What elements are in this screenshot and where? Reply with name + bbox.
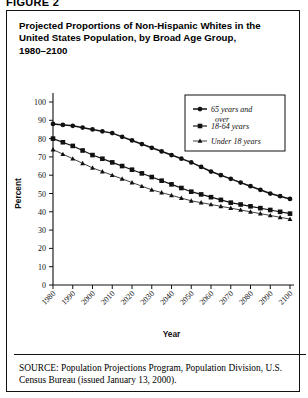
x-axis-tick-label: 2080: [237, 289, 255, 307]
data-point-circle: [130, 138, 135, 143]
data-point-triangle: [51, 147, 56, 151]
figure-title: Projected Proportions of Non-Hispanic Wh…: [19, 20, 287, 57]
data-point-circle: [149, 145, 154, 150]
source-text-line-1: Population Projections Program, Populati…: [61, 363, 263, 373]
x-axis-tick-label: 1990: [59, 289, 77, 307]
x-axis-tick-label: 1980: [40, 289, 58, 307]
data-point-square: [258, 206, 263, 211]
data-point-circle: [288, 197, 293, 202]
source-divider: [14, 354, 306, 355]
data-point-square: [70, 144, 75, 149]
data-point-circle: [219, 173, 224, 178]
figure-frame: Projected Proportions of Non-Hispanic Wh…: [6, 10, 300, 392]
y-axis-tick-label: 10: [38, 263, 46, 272]
data-point-circle: [209, 169, 214, 174]
data-point-circle: [159, 149, 164, 154]
legend-marker-square: [198, 124, 203, 129]
x-axis-tick-label: 2070: [217, 289, 235, 307]
data-point-circle: [278, 194, 283, 199]
data-point-circle: [90, 127, 95, 132]
data-point-square: [268, 208, 273, 213]
data-point-circle: [100, 129, 105, 134]
y-axis-tick-label: 90: [38, 116, 46, 125]
data-point-circle: [238, 180, 243, 185]
title-line-1: Projected Proportions of Non-Hispanic Wh…: [19, 20, 287, 32]
y-axis-tick-label: 80: [38, 135, 46, 144]
data-point-circle: [140, 142, 145, 147]
data-point-triangle: [60, 152, 65, 156]
data-point-square: [228, 200, 233, 205]
x-axis-tick-label: 2010: [99, 289, 117, 307]
y-axis-tick-label: 40: [38, 208, 46, 217]
data-point-circle: [80, 125, 85, 130]
legend-label: 65 years and: [211, 105, 253, 114]
data-point-square: [288, 211, 293, 216]
data-point-circle: [248, 184, 253, 189]
data-point-circle: [51, 122, 56, 127]
source-label: SOURCE:: [19, 363, 59, 373]
data-point-square: [61, 140, 66, 145]
data-point-square: [159, 178, 164, 183]
data-point-square: [90, 153, 95, 158]
data-point-square: [248, 204, 253, 209]
data-point-circle: [228, 176, 233, 181]
legend-label: 18-64 years: [211, 122, 249, 131]
line-chart: 0102030405060708090100Percent19801990200…: [7, 73, 299, 341]
data-point-square: [169, 182, 174, 187]
x-axis-tick-label: 2020: [119, 289, 137, 307]
data-point-circle: [70, 123, 75, 128]
data-point-square: [209, 195, 214, 200]
y-axis-tick-label: 60: [38, 171, 46, 180]
x-axis-tick-label: 2100: [277, 289, 295, 307]
figure-label: FIGURE 2: [6, 0, 308, 6]
x-axis-tick-label: 2060: [198, 289, 216, 307]
data-point-square: [238, 202, 243, 207]
data-point-square: [110, 160, 115, 165]
y-axis-tick-label: 0: [42, 281, 46, 290]
x-axis-tick-label: 2090: [257, 289, 275, 307]
data-point-square: [219, 198, 224, 203]
data-point-square: [100, 156, 105, 161]
title-line-2: United States Population, by Broad Age G…: [19, 32, 287, 44]
legend-marker-circle: [198, 107, 203, 112]
data-point-circle: [169, 153, 174, 158]
data-point-circle: [179, 156, 184, 161]
data-point-triangle: [90, 165, 95, 169]
data-point-square: [120, 164, 125, 169]
data-point-square: [140, 171, 145, 176]
x-axis-tick-label: 2000: [79, 289, 97, 307]
x-axis-tick-label: 2040: [158, 289, 176, 307]
data-point-circle: [199, 165, 204, 170]
x-axis-title: Year: [163, 329, 181, 339]
data-point-square: [51, 136, 56, 141]
data-point-square: [278, 210, 283, 215]
title-line-3: 1980–2100: [19, 45, 287, 57]
data-point-square: [80, 148, 85, 153]
data-point-circle: [189, 160, 194, 165]
x-axis-tick-label: 2030: [138, 289, 156, 307]
y-axis-title: Percent: [13, 178, 23, 209]
data-point-circle: [268, 191, 273, 196]
data-point-circle: [258, 187, 263, 192]
data-point-square: [130, 167, 135, 172]
data-point-triangle: [80, 161, 85, 165]
data-point-circle: [120, 134, 125, 139]
data-point-circle: [61, 123, 66, 128]
data-point-square: [189, 189, 194, 194]
y-axis-tick-label: 30: [38, 226, 46, 235]
data-point-square: [149, 175, 154, 180]
y-axis-tick-label: 100: [34, 98, 46, 107]
data-point-triangle: [70, 156, 75, 160]
data-point-square: [179, 186, 184, 191]
y-axis-tick-label: 50: [38, 190, 46, 199]
chart-plot: 0102030405060708090100Percent19801990200…: [7, 73, 299, 341]
data-point-square: [199, 192, 204, 197]
legend-label: Under 18 years: [211, 137, 261, 146]
y-axis-tick-label: 70: [38, 153, 46, 162]
y-axis-tick-label: 20: [38, 244, 46, 253]
source-note: SOURCE: Population Projections Program, …: [19, 363, 291, 386]
data-point-circle: [110, 131, 115, 136]
x-axis-tick-label: 2050: [178, 289, 196, 307]
